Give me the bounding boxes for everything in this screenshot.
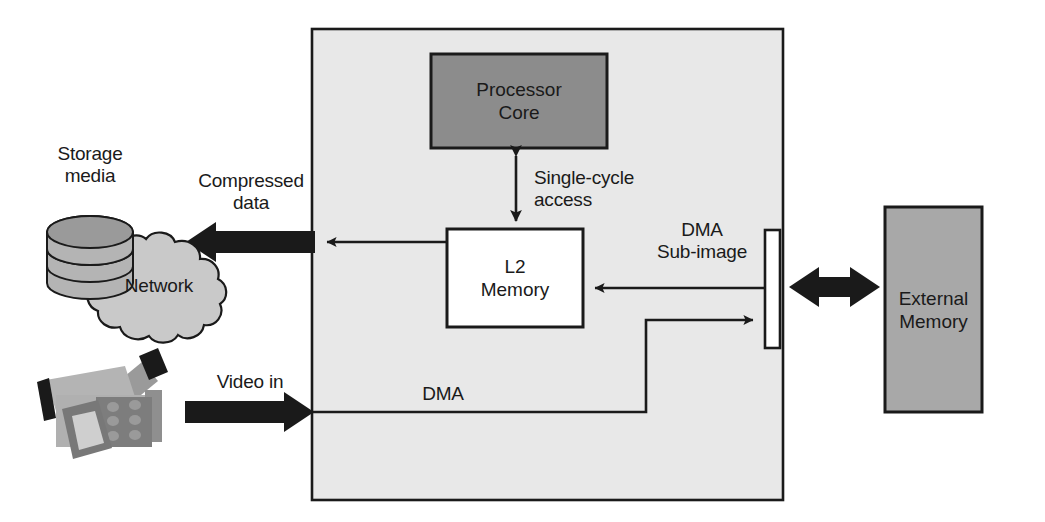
l2-memory-label: L2 Memory — [447, 229, 583, 327]
camcorder-icon — [37, 348, 168, 459]
diagram-canvas: Processor Core L2 Memory External Memory… — [0, 0, 1045, 522]
external-memory-bidir-arrow — [789, 267, 880, 307]
storage-media-label: Storage media — [18, 143, 162, 187]
video-in-label: Video in — [185, 371, 315, 393]
external-memory-label: External Memory — [885, 207, 982, 412]
video-in-arrow — [185, 392, 314, 432]
compressed-data-arrow — [186, 222, 315, 262]
dma-sub-image-label: DMA Sub-image — [636, 219, 768, 263]
compressed-data-label: Compressed data — [179, 170, 323, 214]
processor-core-label: Processor Core — [431, 54, 607, 148]
network-label: Network — [105, 275, 213, 297]
single-cycle-access-label: Single-cycle access — [534, 167, 674, 211]
dma-label: DMA — [398, 383, 488, 405]
